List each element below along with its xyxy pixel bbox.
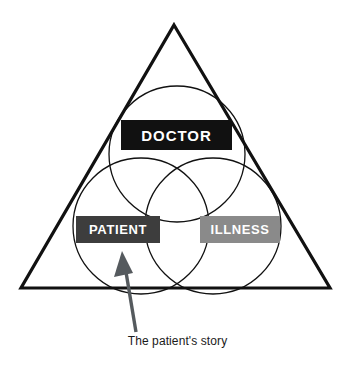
label-doctor: DOCTOR — [121, 120, 232, 150]
label-doctor-text: DOCTOR — [141, 127, 212, 144]
label-patient-text: PATIENT — [89, 222, 147, 237]
venn-diagram-graphic — [0, 0, 355, 367]
label-patient: PATIENT — [76, 216, 160, 243]
caption-text: The patient's story — [0, 334, 355, 348]
label-illness: ILLNESS — [200, 216, 280, 243]
arrow-shaft — [126, 272, 136, 332]
diagram-canvas: DOCTOR PATIENT ILLNESS The patient's sto… — [0, 0, 355, 367]
doctor-circle — [109, 86, 245, 222]
label-illness-text: ILLNESS — [210, 222, 269, 237]
arrow-head — [114, 251, 133, 277]
outer-triangle — [21, 25, 330, 288]
